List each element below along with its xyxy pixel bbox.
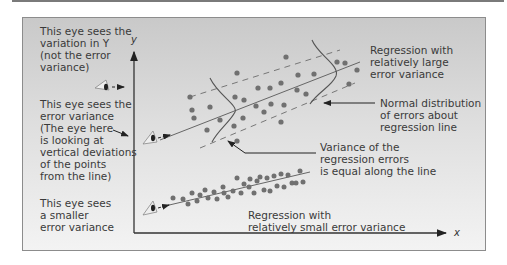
callout-small-regression: Regression with relatively small error v… (248, 209, 405, 233)
note-smaller-error-variance: This eye sees a smaller error variance (40, 197, 114, 233)
small-variance-points (171, 169, 306, 207)
callout-equal-variance: Variance of the regression errors is equ… (320, 141, 436, 177)
large-variance-points (187, 54, 359, 143)
note-error-variance: This eye sees the error variance (The ey… (40, 98, 137, 182)
callout-large-regression: Regression with relatively large error v… (370, 44, 453, 80)
note-variation-in-y: This eye sees the variation in Y (not th… (40, 25, 132, 73)
callout-normal-distribution: Normal distribution of errors about regr… (380, 97, 481, 133)
small-variance-regression (165, 169, 310, 207)
eye-icon-top (95, 80, 124, 90)
large-variance-regression (160, 40, 360, 148)
x-axis-label: x (454, 227, 460, 238)
eye-icon-bottom (143, 201, 169, 215)
